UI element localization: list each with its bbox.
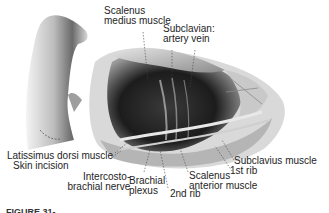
label-text: medius muscle: [104, 16, 171, 26]
label-skin-incision: Skin incision: [13, 161, 69, 171]
label-first-rib: 1st rib: [230, 166, 257, 176]
anatomical-figure: Scalenus medius muscle Subclavian: arter…: [0, 0, 329, 213]
arm-drawing: [26, 15, 88, 150]
label-scalenus-medius: Scalenus medius muscle: [104, 6, 171, 26]
label-text: brachial nerve: [66, 182, 130, 192]
label-subclavian-vessels: Subclavian: artery vein: [163, 24, 215, 44]
figure-caption: FIGURE 31-: [6, 206, 326, 213]
label-text: artery vein: [163, 34, 215, 44]
label-text: anterior muscle: [189, 181, 257, 191]
label-text: plexus: [129, 186, 165, 196]
label-intercostobrachial-nerve: Intercosto- brachial nerve: [66, 172, 130, 192]
label-brachial-plexus: Brachial plexus: [129, 176, 165, 196]
